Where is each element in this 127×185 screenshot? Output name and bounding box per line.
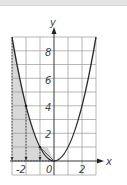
point-neg2	[25, 105, 28, 108]
y-axis-label: y	[49, 17, 57, 28]
tick-y-2: 2	[45, 129, 51, 140]
tick-y-8: 8	[45, 47, 51, 58]
x-axis-arrow-icon	[97, 159, 104, 164]
x-axis-label: x	[105, 156, 112, 167]
tick-x-2: 2	[79, 164, 85, 175]
parabola-chart: 8 6 4 2 -2 0 2 y x	[0, 0, 127, 185]
tick-x-0: 0	[46, 164, 52, 175]
point-neg1	[39, 146, 42, 149]
tick-y-6: 6	[45, 75, 51, 86]
tick-x-neg2: -2	[16, 164, 26, 175]
tick-y-4: 4	[45, 102, 51, 113]
y-axis-arrow-icon	[52, 27, 57, 34]
